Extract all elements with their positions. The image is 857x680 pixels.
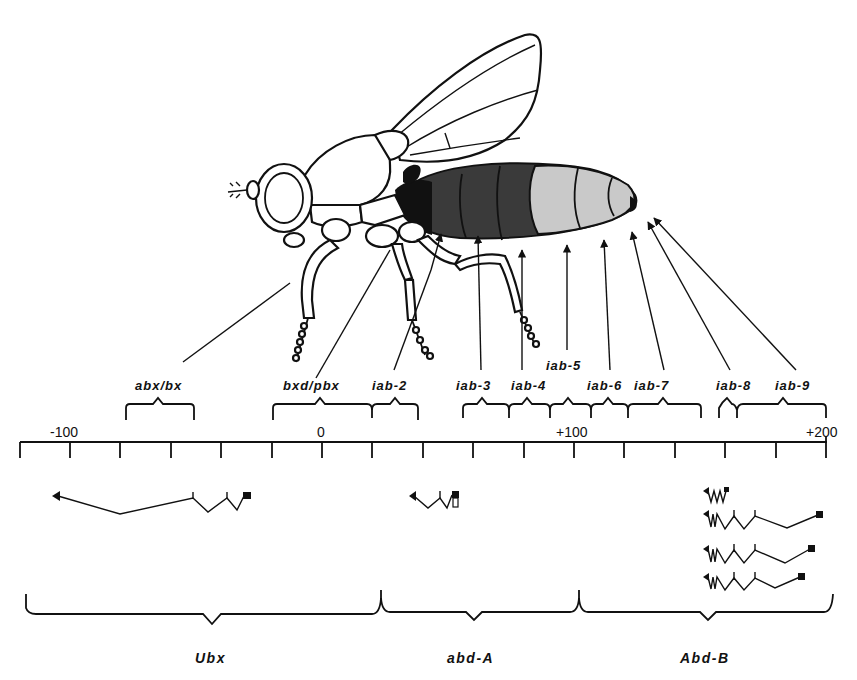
label-bxd-pbx: bxd/pbx: [283, 378, 340, 393]
pointer-iab-9: [654, 218, 796, 370]
label-iab-6: iab-6: [587, 378, 622, 393]
label-iab-8: iab-8: [716, 378, 751, 393]
pointer-iab-6: [604, 240, 610, 370]
label-iab-5: iab-5: [546, 358, 581, 373]
genomic-scale: -100 0 +100 +200: [20, 424, 838, 458]
legs: [293, 236, 539, 362]
transcript-abd-b-4: [703, 572, 805, 590]
gene-labels: Ubx abd-A Abd-B: [195, 650, 730, 666]
gene-label-abd-b: Abd-B: [679, 650, 730, 666]
label-abx-bx: abx/bx: [135, 378, 182, 393]
fly-illustration: [228, 34, 637, 362]
transcript-abd-a: [409, 491, 459, 508]
scale-ticks: [20, 436, 826, 458]
tick-label-plus200: +200: [806, 424, 838, 440]
regulatory-region-labels: abx/bx bxd/pbx iab-2 iab-3 iab-4 iab-5 i…: [135, 358, 810, 393]
wing: [392, 34, 541, 161]
label-iab-3: iab-3: [456, 378, 491, 393]
tick-label-minus100: -100: [50, 424, 78, 440]
transcripts: [52, 487, 823, 590]
transcript-abd-b-2: [703, 510, 823, 529]
pointer-iab-7: [632, 232, 664, 370]
bithorax-complex-diagram: abx/bx bxd/pbx iab-2 iab-3 iab-4 iab-5 i…: [0, 0, 857, 680]
gene-braces: [26, 590, 833, 624]
transcript-abd-b-1: [703, 487, 729, 502]
head: [228, 164, 312, 247]
regulatory-region-braces: [126, 398, 826, 420]
transcript-ubx: [52, 491, 251, 514]
tick-label-0: 0: [317, 424, 325, 440]
pointer-iab-8: [648, 222, 730, 370]
label-iab-2: iab-2: [372, 378, 407, 393]
label-iab-4: iab-4: [511, 378, 546, 393]
pointer-lines: [183, 218, 796, 378]
gene-label-ubx: Ubx: [195, 650, 226, 666]
pointer-abx-bx: [183, 283, 290, 362]
label-iab-9: iab-9: [775, 378, 810, 393]
gene-label-abd-a: abd-A: [447, 650, 494, 666]
abdomen: [395, 163, 637, 240]
tick-label-plus100: +100: [556, 424, 588, 440]
pointer-bxd-pbx: [316, 250, 390, 378]
transcript-abd-b-3: [703, 544, 815, 563]
label-iab-7: iab-7: [634, 378, 669, 393]
